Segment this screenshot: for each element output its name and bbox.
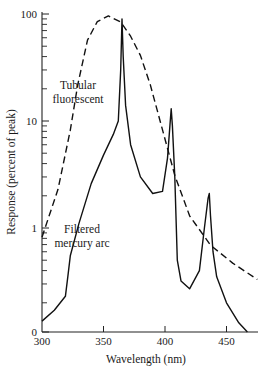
series-layer bbox=[42, 16, 257, 332]
series-filtered-mercury-arc bbox=[42, 19, 247, 332]
x-ticks: 300350400450 bbox=[34, 326, 236, 347]
x-tick-label: 400 bbox=[157, 335, 174, 347]
y-tick-label: 10 bbox=[26, 115, 38, 127]
y-ticks: 0110100 bbox=[21, 8, 50, 338]
annotation-tubular-line2: fluorescent bbox=[52, 93, 104, 105]
x-axis-title: Wavelength (nm) bbox=[106, 353, 186, 366]
annotation-mercury-line2: mercury arc bbox=[54, 237, 109, 250]
annotations: Tubular fluorescent Filtered mercury arc bbox=[52, 79, 109, 250]
y-tick-label: 100 bbox=[21, 8, 38, 20]
x-tick-label: 300 bbox=[34, 335, 51, 347]
x-tick-label: 350 bbox=[95, 335, 112, 347]
axes: 0110100 300350400450 bbox=[21, 8, 259, 347]
annotation-mercury-line1: Filtered bbox=[64, 223, 100, 235]
y-axis-title: Response (percent of peak) bbox=[5, 109, 18, 235]
y-tick-label: 1 bbox=[32, 222, 38, 234]
annotation-tubular-line1: Tubular bbox=[60, 79, 96, 91]
response-chart: 0110100 300350400450 Tubular fluorescent… bbox=[0, 0, 268, 372]
x-tick-label: 450 bbox=[218, 335, 235, 347]
